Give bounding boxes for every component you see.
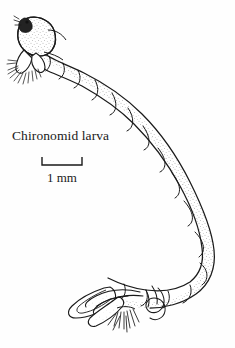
scale-bar-label: 1 mm xyxy=(30,170,94,186)
figure-root: Chironomid larva 1 mm xyxy=(0,0,235,348)
caption-block: Chironomid larva xyxy=(12,128,132,144)
scale-bar-glyph xyxy=(30,154,94,170)
species-caption: Chironomid larva xyxy=(12,128,132,144)
anterior-prolegs xyxy=(7,50,45,84)
scale-bar: 1 mm xyxy=(30,154,94,188)
